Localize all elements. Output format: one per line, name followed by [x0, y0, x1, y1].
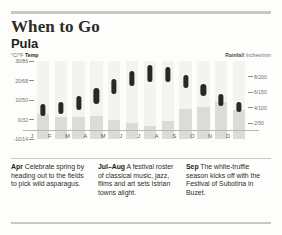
- tip-item: Apr Celebrate spring by heading out to t…: [11, 163, 89, 189]
- month-label: M: [59, 133, 77, 139]
- temperature-range-capsule: [76, 96, 81, 110]
- rain-axis-title: Rainfall Inches/mm: [225, 52, 271, 58]
- temperature-range-capsule: [40, 104, 45, 116]
- month-label: A: [77, 133, 95, 139]
- temp-tick: 20/68: [15, 78, 34, 84]
- page-title: When to Go: [11, 17, 100, 37]
- month-column: [162, 61, 174, 139]
- temperature-range-capsule: [58, 102, 63, 114]
- month-label: F: [41, 133, 59, 139]
- tips-top-divider: [11, 158, 271, 159]
- top-divider: [11, 11, 271, 14]
- chart-baseline: [23, 130, 259, 131]
- temperature-range-capsule: [147, 65, 152, 83]
- bottom-divider: [11, 222, 271, 224]
- month-column: [72, 61, 84, 139]
- month-column: [108, 61, 120, 139]
- tip-month: Apr: [11, 163, 23, 170]
- when-to-go-page: When to Go Pula °C/°F Temp Rainfall Inch…: [0, 0, 282, 235]
- tip-text: Celebrate spring by heading out to the f…: [11, 163, 84, 187]
- month-label: J: [112, 133, 130, 139]
- temperature-range-capsule: [165, 67, 170, 83]
- month-label: M: [94, 133, 112, 139]
- rain-tick: 4/100: [248, 105, 267, 111]
- rain-tick: 2/50: [248, 120, 264, 126]
- month-label: S: [166, 133, 184, 139]
- rain-tick: 6/150: [248, 89, 267, 95]
- temperature-range-capsule: [129, 71, 134, 87]
- tip-month: Jul–Aug: [98, 163, 125, 170]
- tip-month: Sep: [186, 163, 199, 170]
- month-column: [233, 61, 245, 139]
- month-columns: [34, 61, 248, 139]
- tip-item: Jul–Aug A festival roster of classical m…: [98, 163, 180, 197]
- month-column: [37, 61, 49, 139]
- month-column: [215, 61, 227, 139]
- month-label: A: [148, 133, 166, 139]
- tip-item: Sep The white-truffle season kicks off w…: [186, 163, 270, 197]
- month-column: [90, 61, 102, 139]
- temp-tick: 10/50: [15, 97, 34, 103]
- month-column: [126, 61, 138, 139]
- rain-axis-label: Rainfall: [225, 52, 244, 58]
- month-column: [179, 61, 191, 139]
- month-label: D: [219, 133, 237, 139]
- month-column: [197, 61, 209, 139]
- month-column: [144, 61, 156, 139]
- month-label: O: [184, 133, 202, 139]
- temp-tick: 0/32: [18, 117, 34, 123]
- month-label: J: [130, 133, 148, 139]
- month-axis-labels: JFMAMJJASOND: [23, 133, 237, 143]
- place-name: Pula: [11, 36, 38, 51]
- rain-tick: 8/200: [248, 74, 267, 80]
- month-label: N: [201, 133, 219, 139]
- temperature-range-capsule: [219, 94, 224, 106]
- temperature-range-capsule: [183, 75, 188, 89]
- temperature-range-capsule: [94, 88, 99, 104]
- rain-axis-units: Inches/mm: [246, 52, 271, 58]
- temp-tick: 30/86: [15, 58, 34, 64]
- temperature-range-capsule: [236, 102, 241, 112]
- temperature-range-capsule: [112, 79, 117, 95]
- month-column: [55, 61, 67, 139]
- chart-plot-area: 30/8620/6810/500/32-10/14 8/2006/1504/10…: [34, 61, 248, 139]
- month-label: J: [23, 133, 41, 139]
- seasonal-tips: Apr Celebrate spring by heading out to t…: [11, 163, 273, 221]
- temperature-range-capsule: [201, 84, 206, 96]
